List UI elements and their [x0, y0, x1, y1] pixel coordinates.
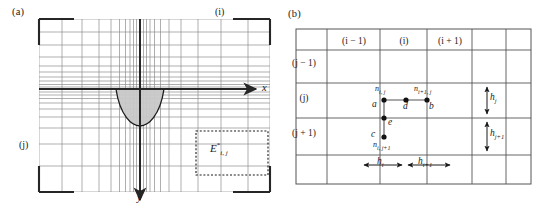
spacing-label-hi1: hi+1	[418, 156, 432, 168]
element-label-subscript: i, j	[220, 149, 227, 157]
spacing-label-hi: hi	[377, 156, 384, 168]
y-axis-label: y	[137, 192, 142, 203]
node-label-n-i-j-sub: i, j	[379, 89, 385, 95]
node-label-n-i-j: ni, j	[375, 84, 385, 95]
node-label-n-i1-j-sub: i+1, j	[418, 89, 431, 95]
figure-root: (a)	[0, 0, 547, 210]
point-label-c: c	[371, 129, 375, 139]
row-header-j-plus-1: (j + 1)	[282, 128, 326, 138]
row-header-j-minus-1: (j − 1)	[282, 58, 326, 68]
spacing-label-hj: hj	[490, 92, 497, 104]
point-label-b: b	[429, 101, 434, 111]
column-header-i-minus-1: (i − 1)	[329, 36, 379, 46]
node-dot-e	[381, 115, 386, 120]
spacing-label-hj1: hj+1	[490, 128, 504, 140]
node-label-n-i1-j: ni+1, j	[414, 84, 431, 95]
element-label-base: E	[210, 142, 217, 154]
panel-a-index-j: (j)	[19, 139, 28, 150]
spacing-label-hi-sub: i	[382, 161, 384, 168]
point-label-a: a	[372, 99, 377, 109]
panel-a: (a)	[0, 0, 280, 210]
node-dot-c	[381, 134, 386, 139]
panel-a-index-i: (i)	[215, 6, 224, 17]
panel-b: (b)	[280, 0, 547, 210]
element-label-E: E*i, j	[210, 141, 228, 157]
point-label-d: d	[403, 101, 408, 111]
panel-b-frame	[296, 29, 531, 184]
point-label-e: e	[388, 117, 392, 127]
node-dot-a	[381, 97, 386, 102]
row-header-j: (j)	[282, 93, 326, 103]
column-header-i: (i)	[382, 36, 426, 46]
column-header-i-plus-1: (i + 1)	[429, 36, 471, 46]
node-label-n-i-j1-sub: i, j+1	[377, 145, 390, 151]
spacing-label-hi1-sub: i+1	[423, 161, 432, 168]
node-label-n-i-j1: ni, j+1	[373, 140, 390, 151]
spacing-label-hj1-sub: j+1	[495, 133, 504, 140]
panel-b-mesh-svg	[280, 0, 547, 210]
element-label-superscript: *	[217, 141, 221, 149]
x-axis-label: x	[262, 82, 267, 93]
panel-a-mesh-svg	[0, 0, 280, 210]
spacing-label-hj-sub: j	[495, 97, 497, 104]
